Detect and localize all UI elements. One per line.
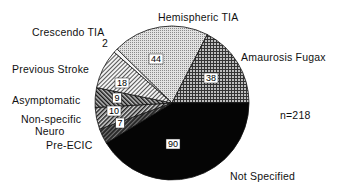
slice-label: Hemispheric TIA: [158, 11, 238, 23]
slice-label: n=218: [280, 109, 311, 121]
slice-label: Amaurosis Fugax: [241, 51, 326, 63]
slice-label: 2: [102, 37, 108, 49]
slice-label: Asymptomatic: [12, 94, 80, 106]
value-label: 10: [109, 106, 119, 116]
slice-label: Non-specific: [21, 113, 81, 125]
slice-label: Not Specified: [230, 170, 295, 182]
value-label: 18: [117, 78, 127, 88]
value-label: 44: [151, 54, 161, 64]
value-label: 90: [168, 139, 178, 149]
value-label: 38: [206, 73, 216, 83]
pie-chart: Crescendo TIAHemispheric TIAAmaurosis Fu…: [0, 0, 341, 191]
value-label: 7: [117, 118, 122, 128]
slice-label: Neuro: [35, 125, 65, 137]
value-label: 9: [114, 93, 119, 103]
slice-label: Crescendo TIA: [32, 26, 104, 38]
slice-label: Previous Stroke: [12, 63, 89, 75]
slice-label: Pre-ECIC: [46, 139, 93, 151]
